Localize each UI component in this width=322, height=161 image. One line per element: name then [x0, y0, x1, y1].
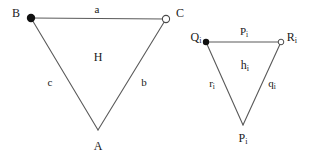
- vertex-qi-marker: [203, 39, 209, 45]
- edge-label-pi: Pi: [240, 26, 248, 39]
- vertex-label-qi-base: Q: [191, 30, 200, 44]
- left-triangle-group: [27, 14, 170, 130]
- vertex-label-a: A: [94, 140, 103, 152]
- edge-label-b: b: [141, 77, 147, 88]
- vertex-label-c: C: [176, 7, 184, 19]
- edge-label-ri: ri: [209, 78, 215, 91]
- edge-b-line: [98, 19, 166, 130]
- figure-canvas: B C A a b c H Qi Ri Pi Pi qi ri hi: [0, 0, 322, 161]
- vertex-label-qi-subscript: i: [199, 36, 201, 45]
- interior-label-hi-subscript: i: [247, 64, 249, 73]
- vertex-b-marker: [27, 14, 35, 22]
- vertex-label-pi-subscript: i: [245, 137, 247, 146]
- vertex-ri-marker: [278, 39, 284, 45]
- edge-label-pi-subscript: i: [246, 30, 248, 39]
- edge-a-line: [31, 18, 166, 19]
- vertex-label-ri: Ri: [287, 31, 297, 45]
- edge-label-qi: qi: [268, 78, 276, 91]
- edge-label-ri-subscript: i: [213, 82, 215, 91]
- interior-label-hi: hi: [241, 59, 249, 73]
- vertex-label-ri-base: R: [287, 30, 295, 44]
- interior-label-h: H: [94, 51, 103, 63]
- edge-label-a: a: [95, 4, 100, 15]
- vertex-label-pi: Pi: [239, 132, 248, 146]
- edge-label-c: c: [48, 77, 53, 88]
- vertex-label-pi-base: P: [239, 131, 246, 145]
- edge-label-qi-subscript: i: [274, 82, 276, 91]
- vertex-c-marker: [162, 15, 169, 22]
- vertex-label-qi: Qi: [191, 31, 202, 45]
- vertex-label-ri-subscript: i: [295, 36, 297, 45]
- edge-c-line: [31, 18, 98, 130]
- vertex-label-b: B: [12, 7, 20, 19]
